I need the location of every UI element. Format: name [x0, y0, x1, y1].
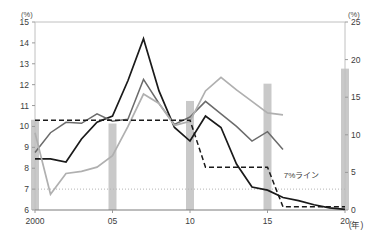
- left-tick-label: 12: [20, 80, 30, 90]
- right-tick-label: 10: [351, 130, 361, 140]
- threshold-annotation: 7%ライン: [284, 171, 320, 180]
- annotations-group: 7%ライン: [284, 171, 320, 180]
- left-axis-unit-label: (%): [21, 10, 33, 19]
- left-tick-label: 8: [24, 163, 29, 173]
- left-tick-label: 6: [24, 205, 29, 215]
- right-tick-label: 0: [351, 205, 356, 215]
- x-tick-label: 05: [108, 216, 118, 226]
- left-tick-label: 13: [20, 59, 30, 69]
- right-tick-label: 15: [351, 92, 361, 102]
- right-tick-label: 5: [351, 167, 356, 177]
- left-tick-label: 9: [24, 142, 29, 152]
- left-tick-label: 11: [20, 101, 29, 111]
- left-tick-label: 14: [20, 38, 30, 48]
- x-axis-unit-label: (年): [349, 220, 364, 230]
- x-tick-label: 15: [263, 216, 273, 226]
- right-axis-unit-label: (%): [348, 10, 360, 19]
- chart-container: 6789101112131415 0510152025 200005101520…: [0, 0, 372, 238]
- bar: [109, 124, 117, 210]
- right-tick-label: 20: [351, 55, 361, 65]
- x-tick-label: 10: [185, 216, 195, 226]
- left-tick-label: 7: [24, 184, 29, 194]
- line-bar-combo-chart: 6789101112131415 0510152025 200005101520…: [0, 0, 372, 238]
- left-tick-label: 10: [20, 121, 30, 131]
- x-tick-label: 2000: [26, 216, 45, 226]
